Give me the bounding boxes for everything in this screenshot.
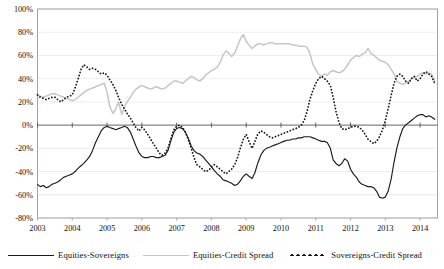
legend-swatch-dotted-icon: [287, 250, 327, 260]
y-tick-label: -20%: [15, 144, 33, 153]
y-tick-label: 80%: [18, 28, 33, 37]
y-tick-label: -80%: [15, 214, 33, 223]
chart-legend: Equities-Sovereigns Equities-Credit Spre…: [0, 243, 444, 267]
legend-label-sovereigns-credit-spread: Sovereigns-Credit Spread: [327, 250, 436, 260]
y-tick-label: 100%: [14, 5, 33, 14]
y-tick-label: 60%: [18, 51, 33, 60]
series-line-0: [38, 115, 435, 199]
legend-item-sovereigns-credit-spread: Sovereigns-Credit Spread: [287, 250, 436, 260]
series-line-2: [38, 65, 435, 174]
x-tick-label: 2014: [412, 224, 428, 233]
x-tick-label: 2008: [203, 224, 219, 233]
legend-item-equities-credit-spread: Equities-Credit Spread: [143, 250, 287, 260]
x-tick-label: 2005: [99, 224, 115, 233]
x-tick-label: 2004: [64, 224, 80, 233]
legend-swatch-solid-dark-icon: [8, 250, 54, 260]
plot-area-container: 100%80%60%40%20%0%-20%-40%-60%-80% 20032…: [0, 0, 444, 238]
y-tick-label: -60%: [15, 191, 33, 200]
x-tick-label: 2010: [273, 224, 289, 233]
legend-item-equities-sovereigns: Equities-Sovereigns: [8, 250, 143, 260]
x-axis-tick-labels: 2003200420052006200720082009201020112012…: [29, 224, 428, 233]
x-tick-label: 2011: [308, 224, 324, 233]
chart-figure: 100%80%60%40%20%0%-20%-40%-60%-80% 20032…: [0, 0, 444, 269]
legend-swatch-solid-gray-icon: [143, 250, 189, 260]
y-tick-label: 40%: [18, 75, 33, 84]
series-line-1: [38, 35, 435, 115]
x-tick-label: 2006: [134, 224, 150, 233]
legend-label-equities-sovereigns: Equities-Sovereigns: [54, 250, 143, 260]
y-tick-label: -40%: [15, 168, 33, 177]
data-series-layer: [38, 35, 435, 199]
x-tick-label: 2003: [29, 224, 45, 233]
line-chart-svg: 100%80%60%40%20%0%-20%-40%-60%-80% 20032…: [0, 0, 444, 238]
y-tick-label: 0%: [22, 121, 33, 130]
x-tick-label: 2013: [377, 224, 393, 233]
legend-label-equities-credit-spread: Equities-Credit Spread: [189, 250, 287, 260]
y-tick-label: 20%: [18, 98, 33, 107]
x-tick-label: 2012: [342, 224, 358, 233]
y-axis-tick-labels: 100%80%60%40%20%0%-20%-40%-60%-80%: [14, 5, 33, 223]
x-tick-label: 2007: [168, 224, 184, 233]
plot-frame: [38, 9, 438, 218]
gridlines-group: [38, 9, 438, 218]
x-tick-label: 2009: [238, 224, 254, 233]
